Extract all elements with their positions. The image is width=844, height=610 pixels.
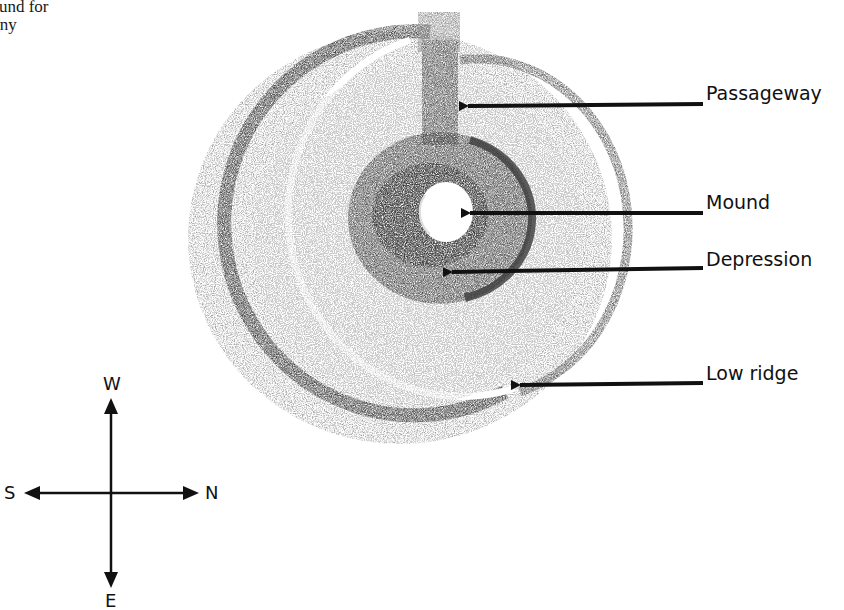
compass-label-north: N: [205, 482, 218, 503]
compass-label-south: S: [4, 482, 15, 503]
passageway-arrow: [468, 104, 703, 106]
compass: [36, 410, 190, 578]
label-depression: Depression: [706, 248, 812, 270]
compass-arrow-up-icon: [104, 398, 118, 414]
compass-arrow-down-icon: [104, 572, 118, 588]
mound: [419, 182, 473, 242]
label-passageway: Passageway: [706, 82, 822, 104]
compass-arrow-right-icon: [183, 486, 199, 500]
compass-label-west: W: [103, 373, 121, 394]
low-ridge-arrow: [520, 383, 703, 385]
label-low-ridge: Low ridge: [706, 362, 798, 384]
compass-arrow-left-icon: [24, 486, 40, 500]
compass-label-east: E: [105, 590, 116, 610]
label-mound: Mound: [706, 191, 770, 213]
passageway: [418, 12, 460, 145]
